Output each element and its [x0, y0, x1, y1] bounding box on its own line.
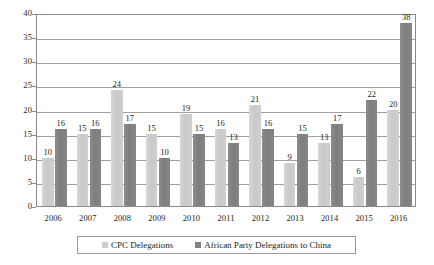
bar-2008-series-1[interactable]: 24 [111, 90, 123, 206]
x-axis-tick-label-2010: 2010 [174, 213, 209, 223]
y-axis-tick-mark [32, 207, 36, 208]
bar-value-label: 22 [367, 90, 376, 99]
bar-2009-series-1[interactable]: 15 [146, 134, 158, 206]
bar-2013-series-2[interactable]: 15 [297, 134, 309, 206]
bar-group-2016: 2038 [387, 15, 412, 206]
plot-area: 1016151624171510191516132116915131762220… [36, 14, 416, 207]
bar-2010-series-2[interactable]: 15 [193, 134, 205, 206]
bar-2012-series-2[interactable]: 16 [262, 129, 274, 206]
bar-value-label: 9 [287, 153, 291, 162]
x-axis-tick-label-2016: 2016 [381, 213, 416, 223]
bars-layer: 1016151624171510191516132116915131762220… [37, 15, 415, 206]
bar-2011-series-1[interactable]: 16 [215, 129, 227, 206]
bar-value-label: 21 [251, 95, 260, 104]
bar-2015-series-1[interactable]: 6 [353, 177, 365, 206]
bar-value-label: 15 [195, 124, 204, 133]
bar-group-2008: 2417 [111, 15, 136, 206]
legend-label: African Party Delegations to China [204, 240, 331, 250]
x-axis-tick-label-2007: 2007 [71, 213, 106, 223]
x-axis-tick-label-2013: 2013 [278, 213, 313, 223]
bar-2007-series-1[interactable]: 15 [77, 134, 89, 206]
bar-value-label: 6 [357, 167, 361, 176]
x-axis-tick-label-2015: 2015 [347, 213, 382, 223]
bar-2014-series-2[interactable]: 17 [331, 124, 343, 206]
bar-value-label: 16 [264, 119, 273, 128]
y-axis-tick-label: 40 [2, 9, 32, 18]
bar-2009-series-2[interactable]: 10 [159, 158, 171, 206]
x-axis-tick-label-2006: 2006 [36, 213, 71, 223]
legend-entry-2[interactable]: African Party Delegations to China [195, 240, 331, 250]
x-axis-tick-label-2012: 2012 [243, 213, 278, 223]
bar-2016-series-2[interactable]: 38 [400, 23, 412, 206]
y-axis-tick-label: 5 [2, 178, 32, 187]
bar-group-2015: 622 [353, 15, 378, 206]
bar-group-2010: 1915 [180, 15, 205, 206]
bar-group-2006: 1016 [42, 15, 67, 206]
bar-value-label: 13 [229, 133, 238, 142]
bar-2010-series-1[interactable]: 19 [180, 114, 192, 206]
bar-2011-series-2[interactable]: 13 [228, 143, 240, 206]
x-axis-tick-label-2008: 2008 [105, 213, 140, 223]
bar-2008-series-2[interactable]: 17 [124, 124, 136, 206]
legend-swatch-african-party-delegations [195, 242, 201, 248]
chart-legend: CPC DelegationsAfrican Party Delegations… [77, 236, 356, 254]
bar-value-label: 10 [160, 148, 169, 157]
bar-2014-series-1[interactable]: 13 [318, 143, 330, 206]
x-axis-tick-label-2009: 2009 [140, 213, 175, 223]
bar-value-label: 16 [57, 119, 66, 128]
bar-2016-series-1[interactable]: 20 [387, 110, 399, 207]
bar-value-label: 17 [333, 114, 342, 123]
bar-2013-series-1[interactable]: 9 [284, 163, 296, 206]
y-axis-tick-label: 35 [2, 33, 32, 42]
bar-chart-figure: 0510152025303540 10161516241715101915161… [0, 0, 434, 265]
bar-value-label: 17 [126, 114, 135, 123]
x-axis-tick-label-2011: 2011 [209, 213, 244, 223]
bar-value-label: 15 [147, 124, 156, 133]
y-axis-tick-label: 0 [2, 202, 32, 211]
bar-2012-series-1[interactable]: 21 [249, 105, 261, 206]
bar-2006-series-2[interactable]: 16 [55, 129, 67, 206]
y-axis-tick-label: 30 [2, 57, 32, 66]
legend-entry-1[interactable]: CPC Delegations [102, 240, 173, 250]
bar-2015-series-2[interactable]: 22 [366, 100, 378, 206]
bar-group-2012: 2116 [249, 15, 274, 206]
bar-group-2009: 1510 [146, 15, 171, 206]
y-axis: 0510152025303540 [0, 0, 36, 265]
bar-value-label: 15 [298, 124, 307, 133]
legend-label: CPC Delegations [111, 240, 173, 250]
bar-value-label: 20 [389, 100, 398, 109]
x-axis: 2006200720082009201020112012201320142015… [36, 209, 416, 225]
y-axis-tick-label: 15 [2, 130, 32, 139]
y-axis-tick-label: 10 [2, 154, 32, 163]
bar-2007-series-2[interactable]: 16 [90, 129, 102, 206]
bar-2006-series-1[interactable]: 10 [42, 158, 54, 206]
bar-group-2014: 1317 [318, 15, 343, 206]
bar-value-label: 16 [91, 119, 100, 128]
bar-group-2013: 915 [284, 15, 309, 206]
bar-value-label: 16 [216, 119, 225, 128]
bar-value-label: 24 [113, 80, 122, 89]
bar-group-2007: 1516 [77, 15, 102, 206]
x-axis-tick-label-2014: 2014 [312, 213, 347, 223]
y-axis-tick-label: 25 [2, 81, 32, 90]
legend-swatch-cpc-delegations [102, 242, 108, 248]
bar-value-label: 10 [44, 148, 53, 157]
bar-value-label: 19 [182, 104, 191, 113]
bar-value-label: 38 [402, 13, 411, 22]
y-axis-tick-label: 20 [2, 106, 32, 115]
bar-group-2011: 1613 [215, 15, 240, 206]
bar-value-label: 13 [320, 133, 329, 142]
bar-value-label: 15 [78, 124, 87, 133]
